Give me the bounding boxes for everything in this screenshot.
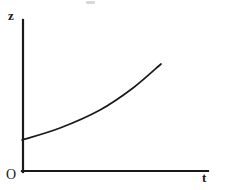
exponential-curve — [22, 64, 161, 140]
plot-canvas — [0, 0, 233, 190]
y-axis-label: z — [8, 9, 14, 22]
graph-figure: z O t — [0, 0, 233, 190]
origin-label: O — [6, 168, 16, 182]
x-axis-label: t — [202, 171, 206, 184]
